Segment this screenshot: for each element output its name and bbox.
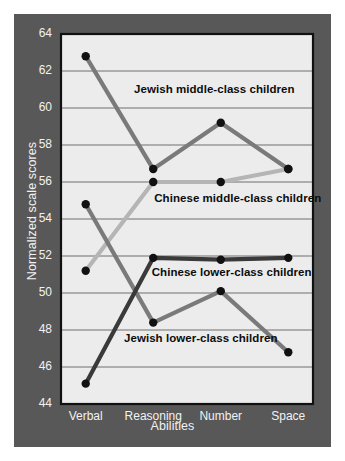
- y-tick-label: 62: [18, 63, 52, 77]
- line-chart-plot: [14, 14, 331, 447]
- data-point-marker: [82, 52, 90, 60]
- chart-figure: 6462605856545250484644 VerbalReasoningNu…: [0, 0, 345, 461]
- data-point-marker: [149, 165, 157, 173]
- y-tick-label: 60: [18, 100, 52, 114]
- data-point-marker: [284, 165, 292, 173]
- data-point-marker: [82, 267, 90, 275]
- chart-panel: 6462605856545250484644 VerbalReasoningNu…: [14, 14, 331, 447]
- y-tick-label: 44: [18, 396, 52, 410]
- data-point-marker: [217, 287, 225, 295]
- y-tick-label: 46: [18, 359, 52, 373]
- series-label-chinese-middle: Chinese middle-class children: [154, 192, 321, 204]
- data-point-marker: [284, 348, 292, 356]
- data-point-marker: [149, 318, 157, 326]
- data-point-marker: [284, 254, 292, 262]
- data-point-marker: [217, 178, 225, 186]
- data-point-marker: [217, 119, 225, 127]
- data-point-marker: [149, 254, 157, 262]
- data-point-marker: [217, 256, 225, 264]
- data-point-marker: [82, 379, 90, 387]
- series-label-jewish-lower: Jewish lower-class children: [124, 332, 277, 344]
- data-point-marker: [82, 200, 90, 208]
- series-label-chinese-lower: Chinese lower-class children: [152, 266, 312, 278]
- x-axis-title: Abilities: [14, 419, 331, 433]
- y-tick-label: 48: [18, 322, 52, 336]
- y-tick-label: 64: [18, 26, 52, 40]
- y-axis-title: Normalized scale scores: [25, 131, 39, 291]
- data-point-marker: [149, 178, 157, 186]
- series-label-jewish-middle: Jewish middle-class children: [134, 83, 295, 95]
